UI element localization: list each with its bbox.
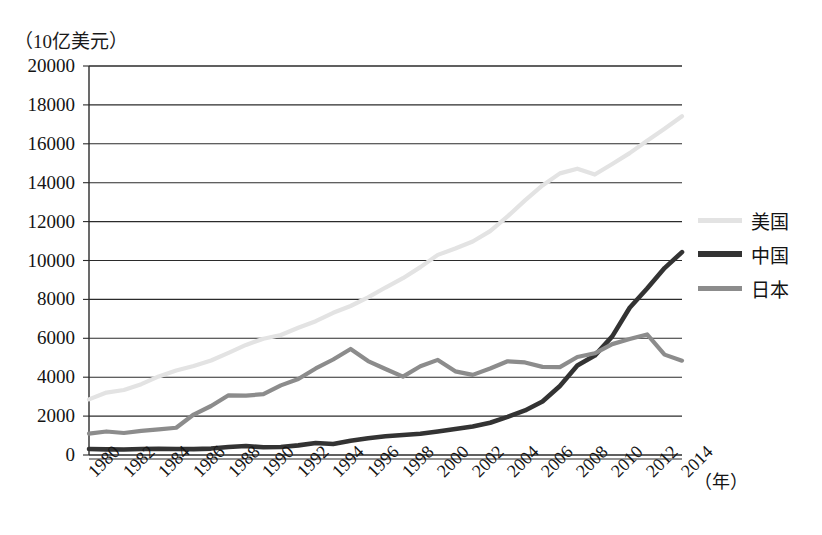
axis-frame bbox=[83, 66, 682, 459]
y-axis-tick-label: 14000 bbox=[0, 172, 75, 194]
legend-swatch-japan bbox=[698, 286, 742, 291]
y-axis-tick-label: 16000 bbox=[0, 133, 75, 155]
gridlines bbox=[89, 66, 682, 416]
gdp-line-chart: （10亿美元） 02000400060008000100001200014000… bbox=[0, 0, 822, 535]
chart-legend: 美国 中国 日本 bbox=[698, 203, 789, 305]
y-axis-tick-label: 8000 bbox=[0, 288, 75, 310]
x-axis-unit-label: （年） bbox=[694, 467, 748, 493]
series-line bbox=[89, 252, 682, 449]
legend-item-japan: 日本 bbox=[698, 271, 789, 305]
legend-label-usa: 美国 bbox=[751, 207, 789, 234]
y-axis-tick-label: 2000 bbox=[0, 405, 75, 427]
legend-label-china: 中国 bbox=[751, 241, 789, 268]
y-axis-tick-label: 4000 bbox=[0, 366, 75, 388]
y-axis-tick-label: 20000 bbox=[0, 55, 75, 77]
legend-item-china: 中国 bbox=[698, 237, 789, 271]
y-axis-tick-label: 6000 bbox=[0, 327, 75, 349]
legend-swatch-china bbox=[698, 251, 742, 257]
legend-label-japan: 日本 bbox=[751, 275, 789, 302]
y-axis-tick-label: 12000 bbox=[0, 211, 75, 233]
y-axis-tick-label: 10000 bbox=[0, 250, 75, 272]
y-axis-tick-label: 0 bbox=[0, 444, 75, 466]
data-series-group bbox=[89, 116, 682, 449]
legend-swatch-usa bbox=[698, 218, 742, 223]
legend-item-usa: 美国 bbox=[698, 203, 789, 237]
series-line bbox=[89, 334, 682, 433]
y-axis-unit-label: （10亿美元） bbox=[14, 26, 128, 53]
y-axis-tick-label: 18000 bbox=[0, 94, 75, 116]
